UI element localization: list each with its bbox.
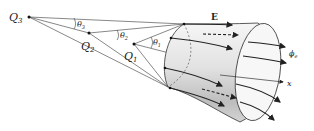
charge-q3-dot [28, 16, 31, 19]
label-q1: Q1 [124, 50, 138, 64]
charge-points [28, 16, 186, 90]
label-theta1: θ1 [153, 38, 161, 48]
charge-q1-dot [133, 43, 136, 46]
label-q3: Q3 [9, 11, 23, 25]
label-x-axis: x [287, 79, 292, 88]
label-theta2: θ2 [120, 31, 128, 41]
label-flux: ϕe [289, 49, 297, 59]
flux-diagram: Q3 Q2 Q1 θ3 θ2 θ1 E ϕe x [0, 0, 314, 131]
label-theta3: θ3 [77, 20, 85, 30]
label-q2: Q2 [81, 40, 95, 54]
charge-q2-dot [88, 32, 91, 35]
label-field-e: E [211, 12, 218, 22]
